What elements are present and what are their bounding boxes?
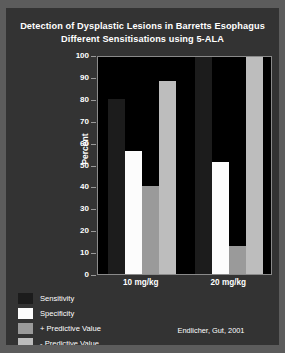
citation-text: Endlicher, Gut, 2001 [151, 326, 271, 335]
y-axis-tick-label: 90 [63, 74, 89, 82]
bar [246, 56, 263, 274]
chart-legend: SensitivitySpecificity+ Predictive Value… [18, 291, 158, 345]
legend-swatch [18, 323, 33, 334]
y-axis-tick-label: 20 [63, 227, 89, 235]
y-axis-tick-label: 60 [63, 140, 89, 148]
y-axis-tick-label: 100 [63, 52, 89, 60]
legend-swatch [18, 308, 33, 319]
y-axis-tick-mark [91, 122, 96, 123]
bar [229, 246, 246, 274]
legend-item: Specificity [18, 306, 158, 321]
y-axis-tick-label: 50 [63, 162, 89, 170]
y-axis-tick-mark [91, 100, 96, 101]
slide: Detection of Dysplastic Lesions in Barre… [0, 0, 285, 353]
bar-group [108, 57, 176, 274]
legend-label: + Predictive Value [40, 321, 101, 336]
chart-title-line-1: Detection of Dysplastic Lesions in Barre… [6, 20, 279, 33]
y-axis-tick-mark [91, 144, 96, 145]
legend-swatch [18, 293, 33, 304]
chart-area: Percent 0102030405060708090100 10 mg/kg2… [91, 56, 272, 284]
y-axis-tick-label: 40 [63, 183, 89, 191]
x-axis-category-label: 10 mg/kg [107, 278, 175, 287]
y-axis-tick-label: 30 [63, 205, 89, 213]
y-axis-tick-label: 80 [63, 96, 89, 104]
y-axis-tick-mark [91, 275, 96, 276]
y-axis-tick-mark [91, 187, 96, 188]
chart-title-line-2: Different Sensitisations using 5-ALA [6, 33, 279, 46]
legend-item: Sensitivity [18, 291, 158, 306]
bar [125, 151, 142, 274]
y-axis-tick-mark [91, 78, 96, 79]
y-axis-tick-label: 10 [63, 249, 89, 257]
y-axis-tick-mark [91, 166, 96, 167]
legend-label: Specificity [40, 306, 74, 321]
y-axis-tick-mark [91, 209, 96, 210]
bar [212, 162, 229, 274]
bar [159, 81, 176, 274]
bar-group [195, 57, 263, 274]
bar [195, 56, 212, 274]
bar [108, 99, 125, 274]
bar [142, 186, 159, 274]
legend-swatch [18, 338, 33, 345]
y-axis-tick-mark [91, 253, 96, 254]
legend-label: Sensitivity [40, 291, 74, 306]
y-axis-tick-label: 0 [63, 271, 89, 279]
y-axis-tick-mark [91, 231, 96, 232]
x-axis-category-label: 20 mg/kg [194, 278, 262, 287]
y-axis-tick-mark [91, 56, 96, 57]
plot-area [97, 56, 272, 275]
y-axis-tick-label: 70 [63, 118, 89, 126]
slide-inner-panel: Detection of Dysplastic Lesions in Barre… [6, 8, 279, 345]
legend-item: + Predictive Value [18, 321, 158, 336]
legend-label: - Predictive Value [40, 336, 99, 345]
chart-title: Detection of Dysplastic Lesions in Barre… [6, 20, 279, 46]
legend-item: - Predictive Value [18, 336, 158, 345]
